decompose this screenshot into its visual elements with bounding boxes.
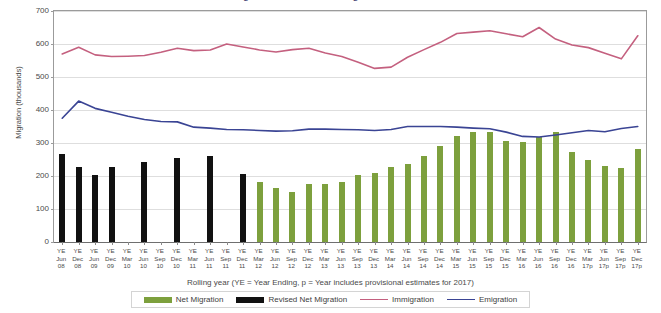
bar-net-migration bbox=[306, 184, 312, 242]
legend-label: Emigration bbox=[479, 295, 517, 304]
x-axis-tick-mark bbox=[210, 242, 211, 245]
x-axis-tick-mark bbox=[605, 242, 606, 245]
x-axis-tick-mark bbox=[391, 242, 392, 245]
bar-revised-net-migration bbox=[141, 162, 147, 242]
chart-title: Long-term international migration estima… bbox=[0, 0, 661, 1]
bar-net-migration bbox=[635, 149, 641, 242]
legend-item-immigration[interactable]: Immigration bbox=[360, 295, 434, 304]
x-axis-tick-mark bbox=[539, 242, 540, 245]
legend-swatch-icon bbox=[447, 299, 475, 300]
y-axis-tick-mark bbox=[51, 242, 54, 243]
y-axis-title: Migration (thousands) bbox=[14, 43, 23, 163]
y-axis-tick-label: 600 bbox=[36, 40, 49, 48]
x-axis-tick-mark bbox=[457, 242, 458, 245]
x-axis-tick-mark bbox=[506, 242, 507, 245]
x-axis-tick-mark bbox=[276, 242, 277, 245]
bar-revised-net-migration bbox=[109, 167, 115, 242]
gridline bbox=[54, 77, 646, 78]
x-axis-labels: YEJun08YEDec08YEJun09YEDec09YEMar10YEJun… bbox=[53, 247, 645, 275]
bar-net-migration bbox=[322, 184, 328, 242]
legend-label: Immigration bbox=[392, 295, 434, 304]
x-axis-tick-mark bbox=[342, 242, 343, 245]
x-axis-tick-mark bbox=[243, 242, 244, 245]
y-axis-tick-label: 300 bbox=[36, 139, 49, 147]
x-axis-tick-mark bbox=[227, 242, 228, 245]
bar-net-migration bbox=[602, 166, 608, 242]
y-axis-tick-mark bbox=[51, 11, 54, 12]
x-axis-tick-mark bbox=[325, 242, 326, 245]
y-axis-tick-mark bbox=[51, 176, 54, 177]
bar-net-migration bbox=[487, 132, 493, 242]
bar-net-migration bbox=[454, 136, 460, 242]
legend-label: Net Migration bbox=[176, 295, 224, 304]
bar-net-migration bbox=[520, 142, 526, 242]
y-axis-tick-mark bbox=[51, 110, 54, 111]
bar-revised-net-migration bbox=[240, 174, 246, 242]
x-axis-tick-mark bbox=[588, 242, 589, 245]
x-axis-tick-label: YEDec17p bbox=[626, 247, 648, 270]
x-axis-label-part: YE bbox=[626, 247, 648, 255]
y-axis-tick-label: 400 bbox=[36, 106, 49, 114]
bar-net-migration bbox=[569, 152, 575, 242]
y-axis-tick-label: 700 bbox=[36, 7, 49, 15]
bar-net-migration bbox=[470, 132, 476, 242]
legend-item-revised-net-migration[interactable]: Revised Net Migration bbox=[236, 295, 347, 304]
migration-chart: Migration (thousands) 010020030040050060… bbox=[0, 6, 661, 264]
x-axis-label-part: Dec bbox=[626, 255, 648, 263]
x-axis-tick-mark bbox=[490, 242, 491, 245]
x-axis-tick-mark bbox=[358, 242, 359, 245]
x-axis-tick-mark bbox=[177, 242, 178, 245]
y-axis-tick-mark bbox=[51, 44, 54, 45]
bar-net-migration bbox=[339, 182, 345, 242]
y-axis-tick-mark bbox=[51, 77, 54, 78]
bar-net-migration bbox=[536, 137, 542, 242]
x-axis-tick-mark bbox=[161, 242, 162, 245]
x-axis-tick-mark bbox=[473, 242, 474, 245]
immigration-line bbox=[62, 28, 638, 69]
y-axis-tick-label: 500 bbox=[36, 73, 49, 81]
gridline bbox=[54, 44, 646, 45]
bar-net-migration bbox=[405, 164, 411, 242]
bar-net-migration bbox=[437, 146, 443, 242]
x-axis-tick-mark bbox=[375, 242, 376, 245]
legend-swatch-icon bbox=[360, 299, 388, 300]
x-axis-tick-mark bbox=[112, 242, 113, 245]
bar-revised-net-migration bbox=[174, 158, 180, 242]
gridline bbox=[54, 110, 646, 111]
x-axis-tick-mark bbox=[408, 242, 409, 245]
x-axis-tick-mark bbox=[523, 242, 524, 245]
x-axis-tick-mark bbox=[260, 242, 261, 245]
chart-legend: Net MigrationRevised Net MigrationImmigr… bbox=[131, 291, 530, 308]
x-axis-label-part: 17p bbox=[626, 262, 648, 270]
x-axis-tick-mark bbox=[440, 242, 441, 245]
x-axis-tick-mark bbox=[572, 242, 573, 245]
bar-net-migration bbox=[421, 156, 427, 242]
bar-revised-net-migration bbox=[76, 167, 82, 242]
y-axis-tick-mark bbox=[51, 209, 54, 210]
bar-net-migration bbox=[355, 175, 361, 242]
legend-item-net-migration[interactable]: Net Migration bbox=[144, 295, 224, 304]
y-axis-tick-label: 200 bbox=[36, 172, 49, 180]
gridline bbox=[54, 11, 646, 12]
legend-item-emigration[interactable]: Emigration bbox=[447, 295, 517, 304]
x-axis-tick-mark bbox=[309, 242, 310, 245]
bar-revised-net-migration bbox=[59, 154, 65, 242]
bar-net-migration bbox=[618, 168, 624, 242]
bar-net-migration bbox=[553, 132, 559, 242]
x-axis-tick-mark bbox=[95, 242, 96, 245]
emigration-line bbox=[62, 101, 638, 137]
x-axis-tick-mark bbox=[62, 242, 63, 245]
bar-revised-net-migration bbox=[92, 175, 98, 242]
y-axis-tick-mark bbox=[51, 143, 54, 144]
bar-net-migration bbox=[388, 167, 394, 242]
x-axis-tick-mark bbox=[424, 242, 425, 245]
x-axis-tick-mark bbox=[144, 242, 145, 245]
legend-swatch-icon bbox=[236, 297, 264, 303]
x-axis-tick-mark bbox=[128, 242, 129, 245]
legend-label: Revised Net Migration bbox=[268, 295, 347, 304]
bar-net-migration bbox=[257, 182, 263, 242]
x-axis-caption: Rolling year (YE = Year Ending, p = Year… bbox=[0, 278, 661, 287]
bar-net-migration bbox=[372, 173, 378, 242]
bar-net-migration bbox=[585, 160, 591, 243]
y-axis-tick-label: 100 bbox=[36, 205, 49, 213]
